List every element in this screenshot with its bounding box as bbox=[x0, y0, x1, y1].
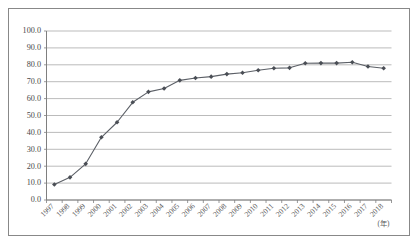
y-tick-labels-group: 0.010.020.030.040.050.060.070.080.090.01… bbox=[23, 26, 41, 204]
y-tick-label: 60.0 bbox=[27, 94, 41, 103]
y-tick-label: 100.0 bbox=[23, 26, 41, 35]
data-point-marker bbox=[287, 66, 292, 71]
data-point-marker bbox=[193, 76, 198, 81]
y-tick-label: 70.0 bbox=[27, 77, 41, 86]
x-tick-label: 2003 bbox=[133, 201, 150, 218]
data-point-marker bbox=[256, 68, 261, 73]
x-tick-label: 2009 bbox=[227, 201, 244, 218]
x-tick-label: 2007 bbox=[195, 201, 212, 218]
x-tick-label: 1998 bbox=[54, 201, 71, 218]
x-tick-label: 1999 bbox=[70, 201, 87, 218]
data-point-marker bbox=[272, 66, 277, 71]
gridlines-group bbox=[44, 31, 392, 200]
data-series-group bbox=[52, 60, 386, 187]
x-tick-label: 2016 bbox=[337, 201, 354, 218]
x-tick-label: 2013 bbox=[290, 201, 307, 218]
data-point-marker bbox=[209, 74, 214, 79]
y-tick-label: 50.0 bbox=[27, 111, 41, 120]
data-point-marker bbox=[162, 86, 167, 91]
y-tick-label: 20.0 bbox=[27, 162, 41, 171]
x-tick-label: 2001 bbox=[101, 201, 118, 218]
x-tick-label: 2005 bbox=[164, 201, 181, 218]
x-tick-label: 2004 bbox=[148, 201, 165, 218]
x-tick-label: 2000 bbox=[86, 201, 103, 218]
x-axis-unit-label: (年) bbox=[378, 219, 390, 228]
data-point-marker bbox=[381, 66, 386, 71]
y-tick-label: 10.0 bbox=[27, 178, 41, 187]
y-tick-label: 0.0 bbox=[31, 195, 41, 204]
data-point-marker bbox=[350, 60, 355, 65]
x-tick-label: 2017 bbox=[352, 201, 369, 218]
chart-figure: 0.010.020.030.040.050.060.070.080.090.01… bbox=[0, 0, 418, 244]
data-point-marker bbox=[225, 72, 230, 77]
x-tick-label: 2008 bbox=[211, 201, 228, 218]
x-tick-label: 2010 bbox=[243, 201, 260, 218]
x-tick-label: 2018 bbox=[368, 201, 385, 218]
x-tick-label: 2006 bbox=[180, 201, 197, 218]
x-tick-label: 2015 bbox=[321, 201, 338, 218]
y-tick-label: 90.0 bbox=[27, 43, 41, 52]
x-tick-label: 1997 bbox=[39, 201, 56, 218]
x-tick-label: 2012 bbox=[274, 201, 291, 218]
x-tick-label: 2011 bbox=[258, 201, 275, 218]
data-point-marker bbox=[240, 70, 245, 75]
chart-svg: 0.010.020.030.040.050.060.070.080.090.01… bbox=[0, 0, 418, 244]
y-tick-label: 40.0 bbox=[27, 128, 41, 137]
x-tick-label: 2002 bbox=[117, 201, 134, 218]
y-tick-label: 30.0 bbox=[27, 145, 41, 154]
y-tick-label: 80.0 bbox=[27, 60, 41, 69]
x-tick-label: 2014 bbox=[305, 201, 322, 218]
line-chart: 0.010.020.030.040.050.060.070.080.090.01… bbox=[0, 0, 418, 244]
x-tick-labels-group: 1997199819992000200120022003200420052006… bbox=[39, 201, 386, 218]
